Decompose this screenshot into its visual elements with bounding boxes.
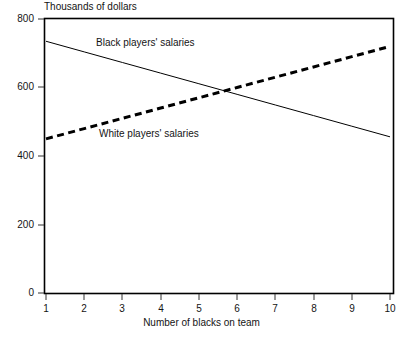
x-tick-label-6: 6 — [225, 303, 249, 314]
x-axis-title: Number of blacks on team — [0, 317, 403, 329]
x-tick-label-3: 3 — [110, 303, 134, 314]
plot-area — [0, 0, 403, 344]
series-label-black-players: Black players' salaries — [96, 37, 195, 49]
x-tick-label-1: 1 — [34, 303, 58, 314]
x-tick-label-2: 2 — [72, 303, 96, 314]
chart-container: Thousands of dollars 8 — [0, 0, 403, 344]
series-label-white-players: White players' salaries — [99, 128, 199, 140]
x-tick-label-8: 8 — [302, 303, 326, 314]
x-tick-label-9: 9 — [340, 303, 364, 314]
x-tick-label-7: 7 — [263, 303, 287, 314]
y-axis-ticks — [38, 19, 44, 293]
y-tick-label-200: 200 — [4, 219, 34, 230]
x-tick-label-5: 5 — [187, 303, 211, 314]
y-tick-label-800: 800 — [4, 13, 34, 24]
series-line-black-players — [46, 41, 390, 137]
footnote-text — [12, 333, 132, 342]
x-tick-label-4: 4 — [149, 303, 173, 314]
series-line-white-players — [46, 46, 390, 138]
y-tick-label-400: 400 — [4, 150, 34, 161]
x-axis-ticks — [46, 294, 390, 300]
y-tick-label-600: 600 — [4, 81, 34, 92]
x-tick-label-10: 10 — [378, 303, 402, 314]
y-tick-label-0: 0 — [4, 287, 34, 298]
